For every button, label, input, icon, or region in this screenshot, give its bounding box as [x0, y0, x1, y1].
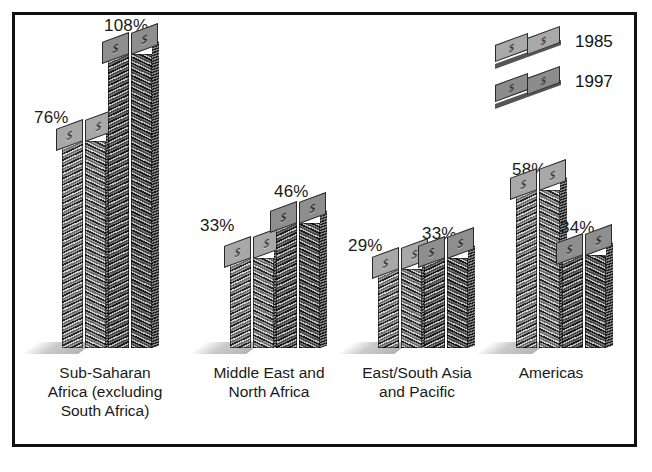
- bar-top-notes: $ $: [101, 35, 159, 61]
- bar-top-notes: $ $: [269, 204, 327, 230]
- bar-column-left: [62, 141, 83, 348]
- bar-side-face: [152, 41, 159, 348]
- banknote-bundle-icon: $: [55, 117, 84, 154]
- bar-column-right: [401, 269, 422, 348]
- bar-column-right: [253, 258, 274, 348]
- category-label-line: East/South Asia: [338, 363, 496, 382]
- banknote-bundle-icon: $: [555, 231, 584, 268]
- banknote-bundle-icon: $: [509, 166, 538, 203]
- legend-label: 1985: [575, 32, 613, 52]
- bar-column-right: [585, 255, 606, 348]
- category-label-line: South Africa): [24, 401, 186, 420]
- category-label-americas: Americas: [478, 363, 624, 382]
- bar-1985-sub-saharan-africa[interactable]: $ $: [62, 141, 106, 348]
- legend-label: 1997: [575, 72, 613, 92]
- banknote-bundle-icon: $: [223, 234, 252, 271]
- money-stack-icon: $ $: [495, 32, 561, 56]
- chart-canvas: 76% $ $ 108%: [0, 0, 652, 472]
- category-label-line: Sub-Saharan: [24, 363, 186, 382]
- bar-1997-americas[interactable]: $ $: [562, 255, 606, 348]
- bar-column-left: [378, 269, 399, 348]
- bar-top-notes: $ $: [55, 122, 113, 148]
- bar-1985-middle-east-north-africa[interactable]: $ $: [230, 258, 274, 348]
- bar-top-notes: $ $: [555, 236, 613, 262]
- bar-column-right: [299, 223, 320, 348]
- category-label-sub-saharan-africa: Sub-Saharan Africa (excluding South Afri…: [24, 363, 186, 420]
- banknote-bundle-icon: $: [101, 30, 130, 67]
- bar-1997-east-south-asia-pacific[interactable]: $ $: [424, 258, 468, 348]
- bar-side-face: [320, 210, 327, 348]
- category-label-line: Africa (excluding: [24, 382, 186, 401]
- bar-column-left: [516, 190, 537, 348]
- plot-area: 76% $ $ 108%: [0, 0, 652, 472]
- bar-column-left: [562, 255, 583, 348]
- category-label-east-south-asia-pacific: East/South Asia and Pacific: [338, 363, 496, 401]
- bar-top-notes: $ $: [509, 171, 567, 197]
- bar-top-notes: $ $: [223, 239, 281, 265]
- bar-group-middle-east-north-africa: 33% $ $ 46%: [198, 0, 348, 472]
- bar-1985-americas[interactable]: $ $: [516, 190, 560, 348]
- money-stack-icon: $ $: [495, 72, 561, 96]
- bar-group-east-south-asia-pacific: 29% $ $ 33%: [346, 0, 496, 472]
- bar-column-left: [424, 258, 445, 348]
- category-label-line: North Africa: [190, 382, 348, 401]
- bar-column-left: [276, 223, 297, 348]
- banknote-bundle-icon: $: [417, 234, 446, 271]
- category-label-middle-east-north-africa: Middle East and North Africa: [190, 363, 348, 401]
- bar-1997-middle-east-north-africa[interactable]: $ $: [276, 223, 320, 348]
- bar-column-right: [447, 258, 468, 348]
- bar-column-right: [85, 141, 106, 348]
- bar-column-right: [131, 54, 152, 348]
- category-label-line: Americas: [478, 363, 624, 382]
- category-label-line: Middle East and: [190, 363, 348, 382]
- bar-column-left: [230, 258, 251, 348]
- bar-column-left: [108, 54, 129, 348]
- bar-value-label: 33%: [200, 216, 235, 236]
- bar-1985-east-south-asia-pacific[interactable]: $ $: [378, 269, 422, 348]
- bar-top-notes: $ $: [417, 239, 475, 265]
- banknote-bundle-icon: $: [371, 245, 400, 282]
- category-label-line: and Pacific: [338, 382, 496, 401]
- banknote-bundle-icon: $: [269, 199, 298, 236]
- bar-1997-sub-saharan-africa[interactable]: $ $: [108, 54, 152, 348]
- bar-column-right: [539, 190, 560, 348]
